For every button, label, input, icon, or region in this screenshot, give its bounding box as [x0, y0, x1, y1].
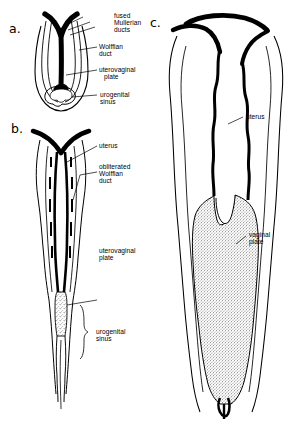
panel-letter-a: a.	[9, 21, 21, 36]
panel-letter-b: b.	[11, 121, 23, 136]
panel-letter-c: c.	[150, 15, 161, 30]
anatomical-figure: a. b. c. fused Mullerian ducts Wolffian …	[0, 0, 301, 421]
label-fused-mullerian-ducts-line3: ducts	[114, 26, 130, 33]
panel-b-uterovaginal-plate	[55, 292, 67, 336]
label-obliterated-wolffian-duct-line3: duct	[99, 177, 112, 184]
label-wolffian-duct-line2: duct	[99, 50, 112, 57]
label-urogenital-sinus-b-line2: sinus	[96, 335, 112, 342]
figure-background	[0, 0, 301, 421]
label-uterovaginal-plate-a-line2: plate	[104, 73, 119, 80]
label-urogenital-sinus-a-line2: sinus	[100, 98, 116, 105]
figure-svg	[0, 0, 301, 421]
label-vaginal-plate-line2: plate	[249, 238, 264, 245]
label-uterovaginal-plate-b-line2: plate	[99, 254, 114, 261]
label-uterus-b: uterus	[99, 142, 118, 149]
label-uterus-c: uterus	[246, 113, 265, 120]
